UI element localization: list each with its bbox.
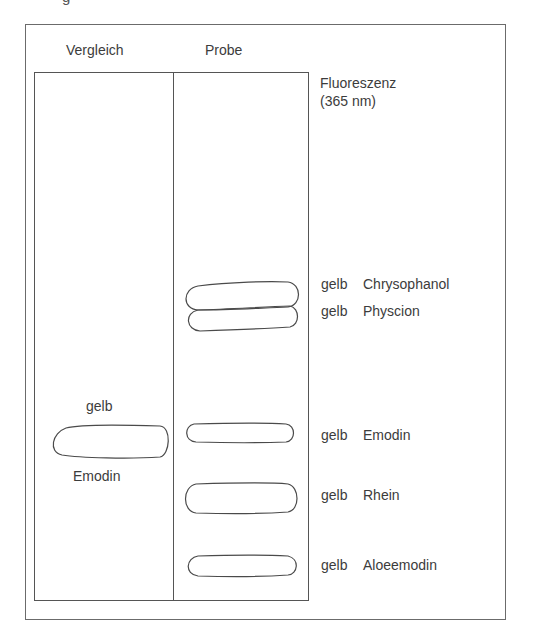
reference-spot-color: gelb	[86, 398, 112, 414]
spot-compound: Emodin	[363, 427, 410, 443]
column-header-sample: Probe	[205, 42, 242, 58]
spot-compound: Chrysophanol	[363, 276, 449, 292]
spot-color: gelb	[321, 557, 363, 573]
spot-compound: Physcion	[363, 303, 420, 319]
spot-color: gelb	[321, 276, 363, 292]
spot-color: gelb	[321, 303, 363, 319]
label-physcion: gelbPhyscion	[321, 303, 420, 319]
detection-line-1: Fluoreszenz	[320, 74, 396, 92]
tlc-plate	[34, 72, 309, 601]
label-chrysophanol: gelbChrysophanol	[321, 276, 449, 292]
label-rhein: gelbRhein	[321, 487, 400, 503]
detection-line-2: (365 nm)	[320, 92, 396, 110]
reference-spot-compound: Emodin	[73, 468, 120, 484]
label-emodin: gelbEmodin	[321, 427, 410, 443]
spot-compound: Rhein	[363, 487, 400, 503]
column-header-reference: Vergleich	[66, 42, 124, 58]
detection-method: Fluoreszenz (365 nm)	[320, 74, 396, 110]
spot-color: gelb	[321, 427, 363, 443]
cropped-caption-fragment: g	[62, 0, 70, 5]
spot-color: gelb	[321, 487, 363, 503]
spot-compound: Aloeemodin	[363, 557, 437, 573]
lane-divider	[173, 72, 174, 601]
label-aloeemodin: gelbAloeemodin	[321, 557, 437, 573]
